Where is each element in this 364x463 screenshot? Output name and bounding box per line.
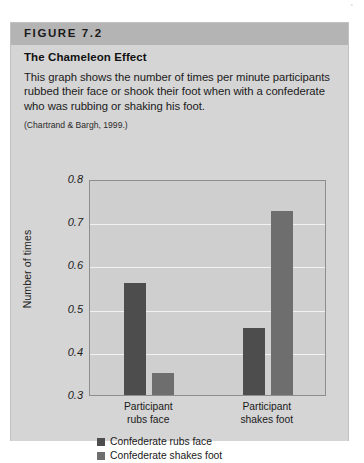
bar-chart: Number of times 0.80.70.60.50.40.3 Parti… [11,143,350,442]
corner-mark: ° [351,3,353,9]
figure-number-label: FIGURE 7.2 [24,27,103,39]
figure-description: This graph shows the number of times per… [24,70,336,113]
bar [124,283,146,395]
figure-header-band: FIGURE 7.2 [11,23,348,45]
y-axis-title: Number of times [21,209,33,329]
legend-label: Confederate shakes foot [110,450,222,461]
y-axis-tick-label: 0.4 [43,346,83,358]
bar [271,211,293,395]
legend-item: Confederate rubs face [97,435,222,448]
legend-swatch-icon [97,452,105,460]
bar [243,328,265,395]
bar [152,373,174,395]
x-axis-category-label: Participantshakes foot [207,401,327,426]
figure-box: FIGURE 7.2 The Chameleon Effect This gra… [10,22,349,441]
legend-label: Confederate rubs face [110,436,212,447]
x-axis-category-label-line: shakes foot [207,414,327,427]
figure-title: The Chameleon Effect [24,51,147,63]
x-axis-category-label-line: Participant [88,401,208,414]
legend-item: Confederate shakes foot [97,449,222,462]
x-axis-category-label-line: rubs face [88,414,208,427]
legend-swatch-icon [97,438,105,446]
y-axis-tick-label: 0.3 [43,389,83,401]
y-axis-tick-label: 0.6 [43,259,83,271]
y-axis-tick-label: 0.8 [43,173,83,185]
y-axis-tick-label: 0.5 [43,303,83,315]
chart-legend: Confederate rubs faceConfederate shakes … [97,435,222,463]
x-axis-category-label: Participantrubs face [88,401,208,426]
x-axis-category-label-line: Participant [207,401,327,414]
figure-source-citation: (Chartrand & Bargh, 1999.) [24,120,128,130]
plot-area [89,180,326,396]
y-axis-tick-label: 0.7 [43,216,83,228]
